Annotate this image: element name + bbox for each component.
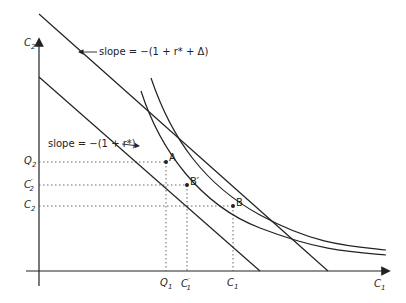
y-tick-c2: C2 [24,200,35,213]
point-b-prime-label: B′ [190,177,199,187]
x-tick-c1: C1 [227,278,238,291]
point-b-prime [185,183,189,187]
indifference-curve-high [151,78,386,250]
y-tick-q2: Q2 [24,156,36,169]
flat-slope-label: slope = −(1 + r*) [48,139,136,149]
y-tick-c2-prime: C′2 [24,179,34,193]
x-axis-label: C1 [374,279,385,292]
point-b [231,204,235,208]
point-a [164,160,168,164]
x-tick-q1: Q1 [160,278,172,291]
indifference-curve-low [141,91,386,255]
budget-line-flat [39,77,260,271]
y-axis-label: C2 [24,38,35,51]
guide-lines [39,162,233,271]
point-b-label: B [236,198,243,208]
point-a-label: A [169,153,176,163]
x-tick-c1-prime: C′1 [181,278,191,292]
steep-slope-label: slope = −(1 + r* + Δ) [99,47,208,57]
